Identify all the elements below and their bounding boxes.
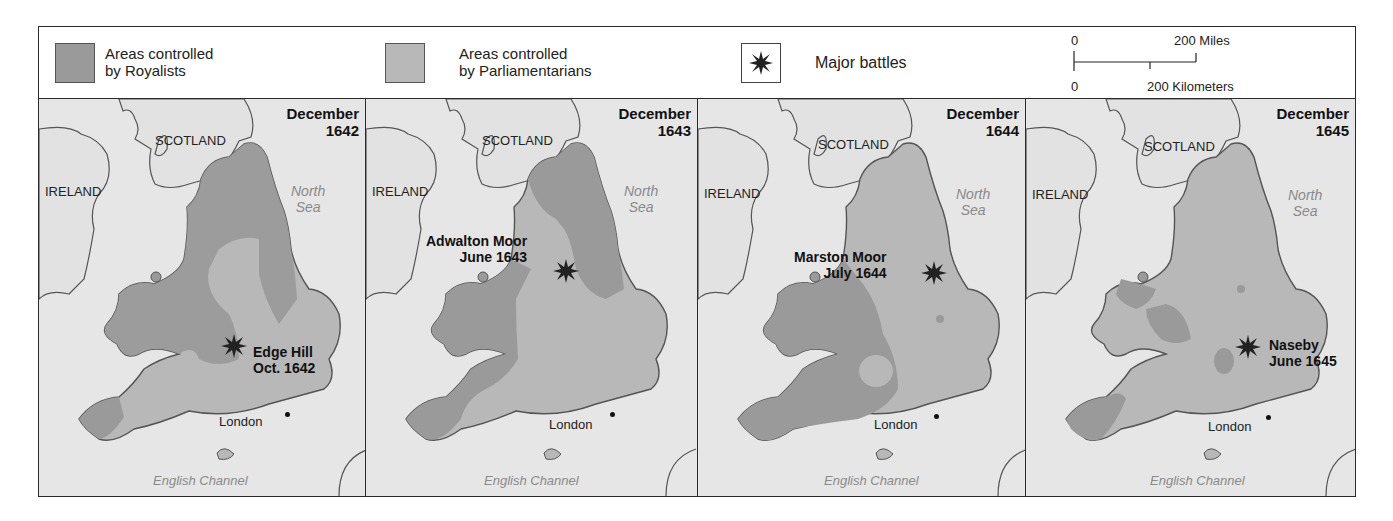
battle-label: Adwalton MoorJune 1643 <box>426 233 527 265</box>
london-marker <box>934 414 939 419</box>
battle-label: Edge HillOct. 1642 <box>253 344 315 376</box>
ireland-label: IRELAND <box>45 184 101 199</box>
london-label: London <box>1208 419 1251 434</box>
map-graphic <box>1026 99 1355 496</box>
royalist-legend-label: Areas controlled by Royalists <box>105 45 213 79</box>
parliamentarian-swatch <box>385 43 425 83</box>
english-channel-label: English Channel <box>1150 473 1245 488</box>
scotland-label: SCOTLAND <box>155 133 226 148</box>
map-panel-1645: December1645 SCOTLAND IRELAND NorthSea N… <box>1026 99 1355 496</box>
map-figure: Areas controlled by Royalists Areas cont… <box>38 26 1356 497</box>
legend: Areas controlled by Royalists Areas cont… <box>39 27 1355 99</box>
map-graphic <box>39 99 365 496</box>
scale-line <box>1069 49 1209 79</box>
explosion-star-icon <box>742 44 780 82</box>
battle-legend-box <box>741 43 781 83</box>
ireland-label: IRELAND <box>1032 187 1088 202</box>
london-label: London <box>549 417 592 432</box>
north-sea-label: NorthSea <box>1288 187 1322 219</box>
map-panels: December1642 SCOTLAND IRELAND NorthSea E… <box>39 99 1355 496</box>
map-graphic <box>698 99 1025 496</box>
battle-legend-label: Major battles <box>815 54 907 71</box>
panel-date: December1643 <box>618 105 691 139</box>
english-channel-label: English Channel <box>484 473 579 488</box>
north-sea-label: NorthSea <box>291 183 325 215</box>
map-panel-1642: December1642 SCOTLAND IRELAND NorthSea E… <box>39 99 366 496</box>
london-label: London <box>874 417 917 432</box>
north-sea-label: NorthSea <box>956 186 990 218</box>
battle-label: Marston MoorJuly 1644 <box>794 249 887 281</box>
london-marker <box>1266 415 1271 420</box>
panel-date: December1645 <box>1276 105 1349 139</box>
north-sea-label: NorthSea <box>624 183 658 215</box>
battle-label: NasebyJune 1645 <box>1269 337 1337 369</box>
london-marker <box>285 412 290 417</box>
panel-date: December1644 <box>946 105 1019 139</box>
english-channel-label: English Channel <box>824 473 919 488</box>
royalist-swatch <box>55 43 95 83</box>
london-marker <box>610 412 615 417</box>
parliamentarian-legend-label: Areas controlled by Parliamentarians <box>459 45 592 79</box>
map-graphic <box>366 99 697 496</box>
map-panel-1643: December1643 SCOTLAND IRELAND NorthSea A… <box>366 99 698 496</box>
scotland-label: SCOTLAND <box>482 133 553 148</box>
scotland-label: SCOTLAND <box>818 137 889 152</box>
london-label: London <box>219 414 262 429</box>
scotland-label: SCOTLAND <box>1144 139 1215 154</box>
ireland-label: IRELAND <box>372 184 428 199</box>
ireland-label: IRELAND <box>704 186 760 201</box>
map-panel-1644: December1644 SCOTLAND IRELAND NorthSea M… <box>698 99 1026 496</box>
panel-date: December1642 <box>286 105 359 139</box>
english-channel-label: English Channel <box>153 473 248 488</box>
